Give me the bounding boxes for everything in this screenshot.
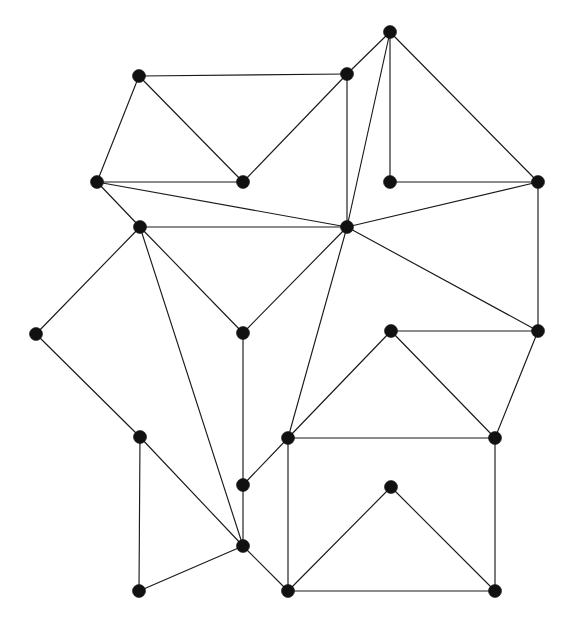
graph-vertex[interactable] <box>237 327 250 340</box>
graph-edge <box>347 32 390 74</box>
graph-edge <box>140 227 243 546</box>
graph-edge <box>243 227 347 333</box>
graph-vertex[interactable] <box>341 68 354 81</box>
graph-edge <box>347 227 538 331</box>
graph-edge <box>288 487 391 591</box>
graph-vertex[interactable] <box>237 540 250 553</box>
graph-edge <box>390 32 538 182</box>
graph-diagram-canvas <box>0 0 567 625</box>
graph-vertex[interactable] <box>384 26 397 39</box>
graph-vertex[interactable] <box>385 481 398 494</box>
graph-edge <box>139 74 347 76</box>
graph-edge <box>36 334 140 437</box>
graph-edge <box>347 32 390 227</box>
graph-edge <box>288 227 347 438</box>
graph-vertex[interactable] <box>489 432 502 445</box>
graph-vertex[interactable] <box>532 176 545 189</box>
graph-vertex[interactable] <box>532 325 545 338</box>
graph-vertex[interactable] <box>134 221 147 234</box>
graph-svg <box>0 0 567 625</box>
graph-vertex[interactable] <box>282 432 295 445</box>
graph-edge <box>139 437 140 591</box>
graph-vertex[interactable] <box>30 328 43 341</box>
graph-vertex[interactable] <box>384 176 397 189</box>
graph-edge <box>97 76 139 182</box>
graph-vertex[interactable] <box>282 585 295 598</box>
graph-vertex[interactable] <box>237 176 250 189</box>
graph-edge <box>97 182 347 227</box>
graph-edge <box>243 74 347 182</box>
graph-edge <box>495 331 538 438</box>
graph-vertex[interactable] <box>133 70 146 83</box>
graph-edge <box>347 182 538 227</box>
graph-vertex[interactable] <box>341 221 354 234</box>
edge-layer <box>36 32 538 591</box>
graph-edge <box>243 438 288 485</box>
graph-vertex[interactable] <box>91 176 104 189</box>
vertex-layer <box>30 26 545 598</box>
graph-vertex[interactable] <box>237 479 250 492</box>
graph-edge <box>36 227 140 334</box>
graph-edge <box>139 76 243 182</box>
graph-edge <box>139 546 243 591</box>
graph-edge <box>391 331 495 438</box>
graph-vertex[interactable] <box>134 431 147 444</box>
graph-vertex[interactable] <box>133 585 146 598</box>
graph-edge <box>140 227 243 333</box>
graph-edge <box>140 437 243 546</box>
graph-edge <box>391 487 495 591</box>
graph-vertex[interactable] <box>489 585 502 598</box>
graph-edge <box>243 546 288 591</box>
graph-vertex[interactable] <box>385 325 398 338</box>
